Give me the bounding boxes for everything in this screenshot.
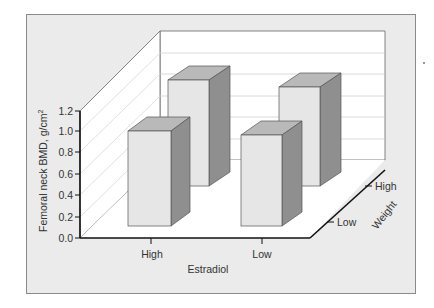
- x-label-high: High: [141, 248, 163, 260]
- svg-text:0.0: 0.0: [58, 232, 73, 244]
- bar-high-estradiol-low-weight: [128, 117, 190, 226]
- x-axis-title: Estradiol: [188, 263, 229, 275]
- svg-text:0.2: 0.2: [58, 211, 73, 223]
- svg-text:0.4: 0.4: [58, 189, 73, 201]
- svg-text:0.6: 0.6: [58, 168, 73, 180]
- stray-mark: [423, 62, 425, 64]
- z-label-high: High: [375, 180, 397, 192]
- z-label-low: Low: [337, 216, 357, 228]
- y-axis-title: Femoral neck BMD, g/cm2: [37, 110, 49, 232]
- y-tick-labels: 0.0 0.2 0.4 0.6 0.8 1.0 1.2: [58, 105, 73, 244]
- bmd-3d-bar-chart: 0.0 0.2 0.4 0.6 0.8 1.0 1.2 High Low Est…: [0, 0, 434, 308]
- svg-text:1.2: 1.2: [58, 105, 73, 117]
- x-label-low: Low: [252, 248, 272, 260]
- svg-text:0.8: 0.8: [58, 146, 73, 158]
- bar-low-estradiol-low-weight: [241, 121, 302, 226]
- svg-text:1.0: 1.0: [58, 125, 73, 137]
- z-axis-title: Weight: [369, 198, 399, 231]
